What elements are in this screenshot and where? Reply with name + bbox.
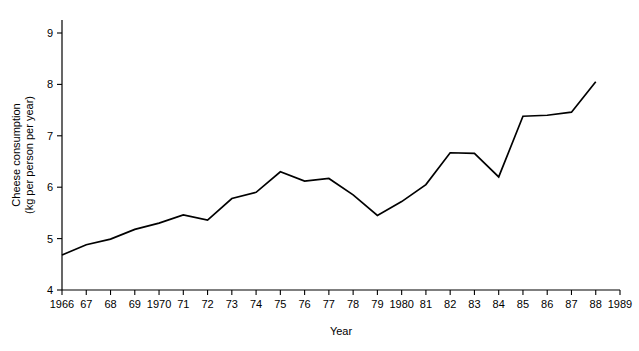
x-tick-label: 84 — [493, 298, 505, 310]
x-axis-tick-labels: 1966676869197071727374757677787919808182… — [50, 298, 632, 310]
x-tick-label: 85 — [517, 298, 529, 310]
x-tick-label: 74 — [250, 298, 262, 310]
y-axis-tick-labels: 456789 — [47, 27, 53, 296]
x-tick-label: 87 — [565, 298, 577, 310]
x-axis-ticks — [62, 290, 620, 295]
y-axis-title-line1: Cheese consumption — [10, 103, 22, 206]
y-axis-title-line2: (kg per person per year) — [23, 96, 35, 214]
x-tick-label: 81 — [420, 298, 432, 310]
x-tick-label: 73 — [226, 298, 238, 310]
x-tick-label: 76 — [298, 298, 310, 310]
y-axis-ticks — [57, 33, 62, 290]
y-axis-title: Cheese consumption (kg per person per ye… — [10, 96, 35, 214]
y-tick-label: 8 — [47, 78, 53, 90]
y-tick-label: 7 — [47, 130, 53, 142]
chart-canvas: 456789 196667686919707172737475767778791… — [0, 0, 639, 351]
x-tick-label: 1989 — [608, 298, 632, 310]
x-tick-label: 1970 — [147, 298, 171, 310]
line-chart: 456789 196667686919707172737475767778791… — [0, 0, 639, 351]
x-tick-label: 78 — [347, 298, 359, 310]
x-tick-label: 69 — [129, 298, 141, 310]
x-axis-title: Year — [330, 325, 353, 337]
x-tick-label: 71 — [177, 298, 189, 310]
y-tick-label: 6 — [47, 181, 53, 193]
x-tick-label: 86 — [541, 298, 553, 310]
x-tick-label: 67 — [80, 298, 92, 310]
x-tick-label: 83 — [468, 298, 480, 310]
data-series-group — [62, 82, 596, 255]
x-tick-label: 1980 — [389, 298, 413, 310]
y-tick-label: 9 — [47, 27, 53, 39]
x-tick-label: 79 — [371, 298, 383, 310]
x-tick-label: 88 — [590, 298, 602, 310]
x-tick-label: 68 — [104, 298, 116, 310]
data-line-cheese-consumption — [62, 82, 596, 255]
x-tick-label: 82 — [444, 298, 456, 310]
x-tick-label: 72 — [201, 298, 213, 310]
x-tick-label: 75 — [274, 298, 286, 310]
y-tick-label: 5 — [47, 233, 53, 245]
y-tick-label: 4 — [47, 284, 53, 296]
x-tick-label: 77 — [323, 298, 335, 310]
x-tick-label: 1966 — [50, 298, 74, 310]
